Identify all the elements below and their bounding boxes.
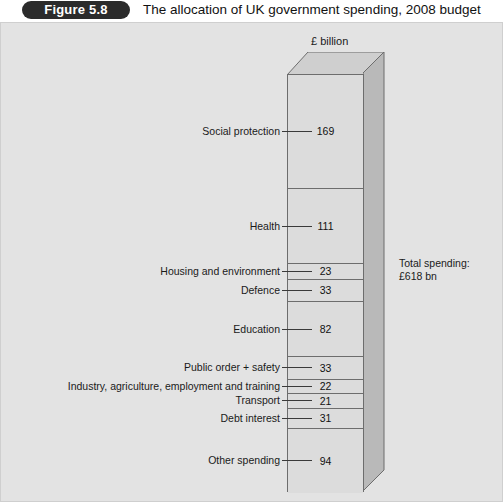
figure-number-badge: Figure 5.8 (22, 1, 130, 19)
bar-front-stack: 1691112333823322213194 (287, 74, 364, 492)
category-label: Public order + safety (184, 362, 280, 373)
figure-title: The allocation of UK government spending… (143, 1, 481, 19)
segment-value: 111 (318, 221, 334, 232)
leader-line (282, 290, 312, 291)
segment-value: 21 (320, 396, 332, 407)
segment-value: 94 (320, 456, 332, 467)
category-label: Debt interest (220, 413, 280, 424)
segment-value: 23 (320, 266, 332, 277)
bar-segment: 169 (288, 75, 363, 189)
segment-value: 82 (320, 324, 332, 335)
category-label: Health (250, 221, 280, 232)
leader-line (282, 131, 312, 132)
segment-value: 22 (320, 381, 332, 392)
category-label: Education (233, 324, 280, 335)
figure-header: Figure 5.8 The allocation of UK governme… (0, 0, 503, 22)
segment-value: 33 (320, 285, 332, 296)
bar-side-face-icon (363, 52, 385, 492)
chart-panel: £ billion Total spending: £618 bn 169111… (0, 22, 503, 502)
leader-line (282, 418, 312, 419)
category-label: Other spending (208, 455, 280, 466)
segment-value: 31 (320, 413, 332, 424)
category-label: Industry, agriculture, employment and tr… (68, 381, 280, 392)
segment-value: 169 (317, 126, 335, 137)
bar-segment: 21 (288, 394, 363, 408)
leader-line (282, 226, 312, 227)
leader-line (282, 329, 312, 330)
category-label: Social protection (202, 126, 280, 137)
leader-line (282, 271, 312, 272)
bar-segment: 94 (288, 429, 363, 492)
stacked-column-figure: 1691112333823322213194 Social protection… (1, 23, 503, 502)
leader-line (282, 367, 312, 368)
leader-line (282, 400, 312, 401)
bar-segment: 33 (288, 357, 363, 379)
leader-line (282, 386, 312, 387)
leader-line (282, 460, 312, 461)
category-label: Defence (241, 285, 280, 296)
category-label: Housing and environment (160, 266, 280, 277)
segment-value: 33 (320, 363, 332, 374)
category-label: Transport (235, 395, 280, 406)
